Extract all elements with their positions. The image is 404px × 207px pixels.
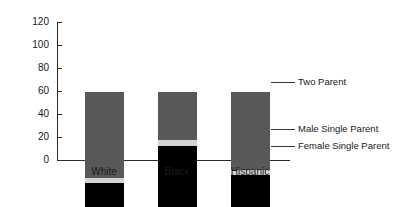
- bar-segment-female-single-parent: [231, 175, 270, 207]
- y-tick-20: [58, 137, 62, 138]
- x-axis-title-2007: 2007: [130, 180, 220, 191]
- x-label-hispanic: Hispanic: [205, 166, 295, 177]
- stacked-bar-chart: 120 100 80 60 40 20 0 White Black Hispan…: [0, 0, 404, 207]
- y-tick-100: [58, 45, 62, 46]
- legend-label-two-parent: Two Parent: [298, 77, 346, 87]
- y-tick-label-0: 0: [9, 155, 49, 165]
- y-tick-60: [58, 91, 62, 92]
- legend-label-female-single-parent: Female Single Parent: [298, 141, 389, 151]
- y-tick-label-120: 120: [9, 17, 49, 27]
- legend-label-male-single-parent: Male Single Parent: [298, 124, 378, 134]
- leader-line-female-single-parent: [271, 146, 295, 147]
- y-tick-label-60: 60: [9, 86, 49, 96]
- bar-segment-two-parent: [231, 92, 270, 170]
- bar-segment-male-single-parent: [85, 178, 124, 183]
- y-tick-120: [58, 22, 62, 23]
- y-tick-label-100: 100: [9, 40, 49, 50]
- bar-segment-female-single-parent: [85, 183, 124, 207]
- y-tick-label-80: 80: [9, 63, 49, 73]
- y-tick-40: [58, 114, 62, 115]
- bar-segment-male-single-parent: [158, 140, 197, 146]
- bar-segment-two-parent: [158, 92, 197, 140]
- y-tick-label-40: 40: [9, 109, 49, 119]
- y-tick-label-20: 20: [9, 132, 49, 142]
- bar-hispanic: [231, 69, 270, 207]
- leader-line-male-single-parent: [271, 129, 295, 130]
- y-tick-80: [58, 68, 62, 69]
- bar-white: [85, 69, 124, 207]
- leader-line-two-parent: [271, 82, 295, 83]
